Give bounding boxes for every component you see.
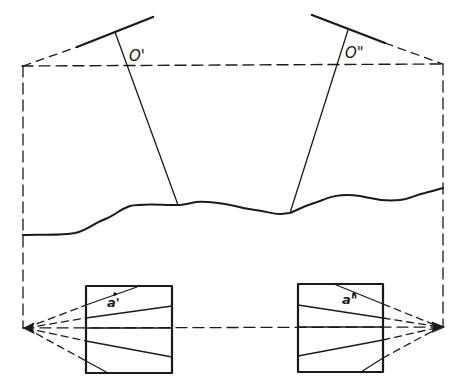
left-vanishing-arrow-icon (24, 323, 34, 333)
right-photo-plane-extension (385, 43, 443, 64)
right-principal-ray (290, 30, 348, 213)
label-a-double-prime: a" (342, 292, 358, 307)
right-plan-frame (298, 284, 383, 372)
label-a-prime: a' (107, 295, 120, 310)
left-plan-frame (86, 286, 172, 373)
baseline-top (22, 64, 443, 66)
label-o-prime: O' (129, 47, 145, 65)
left-frame-rays (86, 287, 172, 373)
label-o-double-prime: O" (345, 44, 364, 62)
left-principal-ray (115, 32, 178, 205)
right-vanishing-rays (383, 304, 440, 358)
left-photo-plane-extension (23, 47, 77, 66)
stereo-diagram (0, 0, 458, 384)
terrain-profile (23, 188, 443, 235)
left-vanishing-rays (26, 305, 86, 361)
right-photo-plane (312, 15, 385, 43)
right-frame-rays (298, 284, 383, 372)
right-vanishing-arrow-icon (432, 322, 444, 332)
